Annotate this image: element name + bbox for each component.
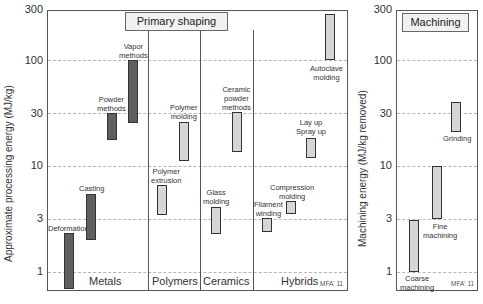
bar-filament-winding xyxy=(262,218,272,232)
bar-ceramic-powder-methods xyxy=(232,112,242,152)
left-y-axis-label: Approximate processing energy (MJ/kg) xyxy=(3,85,14,262)
separator-metals-polymers xyxy=(148,30,149,291)
separator-polymers-ceramics xyxy=(200,30,201,291)
left-credit: MFA' 11 xyxy=(320,280,343,287)
left-grid-100 xyxy=(48,60,347,61)
label-powder-methods: Powder methods xyxy=(97,95,126,113)
left-plot-frame xyxy=(47,10,348,291)
label-glass-molding: Glass molding xyxy=(203,188,229,206)
label-grinding: Grinding xyxy=(443,134,471,143)
bar-coarse-machining xyxy=(409,220,419,272)
bar-powder-methods xyxy=(107,113,117,140)
label-filament-winding: Filament winding xyxy=(254,200,283,218)
right-tick-1: 1 xyxy=(364,265,392,277)
bar-grinding xyxy=(451,102,461,132)
right-tick-30: 30 xyxy=(364,107,392,119)
right-tick-3: 3 xyxy=(364,212,392,224)
label-compression-molding: Compression molding xyxy=(270,183,314,201)
label-vapor-methods: Vapor methods xyxy=(119,42,148,60)
left-tick-3: 3 xyxy=(15,212,43,224)
left-tick-30: 30 xyxy=(15,107,43,119)
right-grid-100 xyxy=(397,60,477,61)
right-tick-10: 10 xyxy=(364,159,392,171)
bar-autoclave-molding xyxy=(325,14,335,60)
right-grid-1 xyxy=(397,272,477,273)
left-grid-10 xyxy=(48,166,347,167)
bar-glass-molding xyxy=(211,207,221,234)
right-credit: MFA' 11 xyxy=(451,280,474,287)
bar-vapor-methods xyxy=(128,60,138,123)
label-polymer-molding: Polymer molding xyxy=(170,103,198,121)
group-label-metals: Metals xyxy=(89,275,121,287)
right-tick-100: 100 xyxy=(364,54,392,66)
left-tick-100: 100 xyxy=(15,54,43,66)
bar-polymer-extrusion xyxy=(157,185,167,215)
label-deformation: Deformation xyxy=(48,224,89,233)
label-autoclave-molding: Autoclave molding xyxy=(310,64,343,82)
bar-compression-molding xyxy=(286,201,296,214)
bar-lay-up-spray-up xyxy=(306,138,316,158)
label-coarse-machining: Coarse machining xyxy=(400,274,434,292)
primary-shaping-title: Primary shaping xyxy=(125,12,228,31)
left-grid-1 xyxy=(48,272,347,273)
label-lay-up-spray-up: Lay up Spray up xyxy=(296,118,326,136)
right-grid-30 xyxy=(397,113,477,114)
label-ceramic-powder-methods: Ceramic powder methods xyxy=(222,85,251,112)
left-tick-10: 10 xyxy=(15,159,43,171)
group-label-polymers: Polymers xyxy=(152,275,198,287)
left-tick-1: 1 xyxy=(15,265,43,277)
machining-title: Machining xyxy=(402,13,469,32)
group-label-ceramics: Ceramics xyxy=(203,275,249,287)
bar-fine-machining xyxy=(432,166,442,219)
separator-ceramics-hybrids xyxy=(253,30,254,291)
left-tick-300: 300 xyxy=(15,3,43,15)
label-polymer-extrusion: Polymer extrusion xyxy=(151,167,181,185)
right-tick-300: 300 xyxy=(364,3,392,15)
bar-polymer-molding xyxy=(179,122,189,161)
bar-casting xyxy=(86,194,96,240)
group-label-hybrids: Hybrids xyxy=(281,275,318,287)
bar-deformation xyxy=(64,233,74,289)
label-fine-machining: Fine machining xyxy=(423,222,457,240)
label-casting: Casting xyxy=(79,184,104,193)
